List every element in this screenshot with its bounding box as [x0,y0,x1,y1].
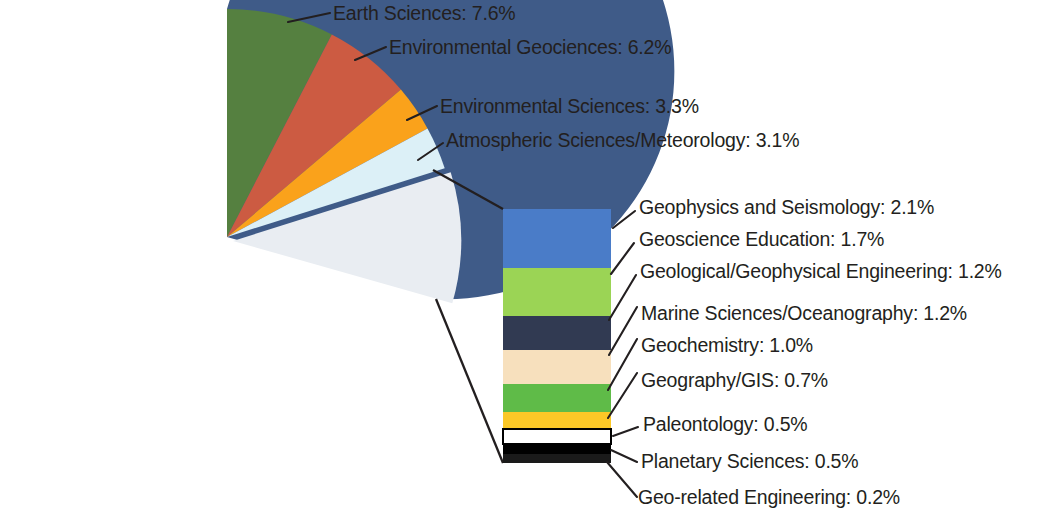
leader-line-geo-related-engineering [607,462,637,497]
bar-segment-paleontology[interactable] [503,429,611,444]
bar-segment-geochemistry[interactable] [503,384,611,412]
callout-label-geo-related-engineering: Geo-related Engineering: 0.2% [638,488,900,508]
callout-label-geological-geophysical-engineering: Geological/Geophysical Engineering: 1.2% [640,262,1002,282]
bar-segment-geography-gis[interactable] [503,412,611,429]
breakout-stacked-bar[interactable] [503,209,611,463]
leader-line-paleontology [613,427,638,436]
bar-segment-geoscience-education[interactable] [503,268,611,316]
leader-line-geochemistry [608,339,637,390]
chart-svg [0,0,1041,517]
callout-label-environmental-sciences: Environmental Sciences: 3.3% [440,97,699,117]
callout-label-atmospheric-sciences: Atmospheric Sciences/Meteorology: 3.1% [446,131,799,151]
callout-label-marine-sciences-oceanography: Marine Sciences/Oceanography: 1.2% [641,304,967,324]
leader-line-geography-gis [608,373,637,418]
bar-segment-geological-geophysical-engineering[interactable] [503,316,611,350]
pie-chart-figure: Geology: 70.6% Earth Sciences: 7.6% Envi… [0,0,1041,517]
bar-segment-geophysics-and-seismology[interactable] [503,209,611,268]
bar-segment-planetary-sciences[interactable] [503,444,611,454]
leader-line-geoscience-education [611,243,634,274]
leader-line-geological-geophysical-engineering [609,275,636,320]
callout-label-geophysics-and-seismology: Geophysics and Seismology: 2.1% [639,198,934,218]
callout-label-paleontology: Paleontology: 0.5% [643,415,807,435]
leader-line-planetary-sciences [611,450,637,462]
bar-segment-geo-related-engineering[interactable] [503,454,611,463]
callout-label-environmental-geociences: Environmental Geociences: 6.2% [389,38,671,58]
pie-label-geology: Geology: 70.6% [83,311,223,330]
callout-label-earth-sciences: Earth Sciences: 7.6% [333,4,515,24]
callout-label-planetary-sciences: Planetary Sciences: 0.5% [641,452,858,472]
bar-segment-marine-sciences-oceanography[interactable] [503,350,611,384]
callout-label-geography-gis: Geography/GIS: 0.7% [641,371,828,391]
breakout-connector-bottom [436,299,503,463]
callout-label-geochemistry: Geochemistry: 1.0% [641,336,813,356]
callout-label-geoscience-education: Geoscience Education: 1.7% [639,230,884,250]
